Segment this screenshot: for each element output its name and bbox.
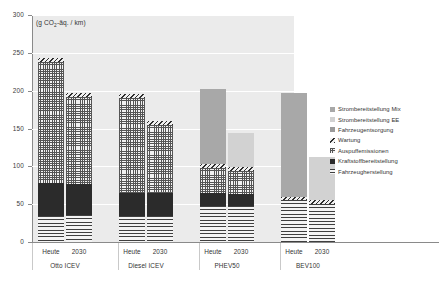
x-axis-subcategory-label: 2030: [143, 248, 177, 255]
axis-unit-label: (g CO2-äq. / km): [36, 19, 86, 28]
bar-segment: [200, 206, 226, 242]
legend-swatch-icon: [330, 159, 335, 164]
x-tick-line: [38, 242, 64, 243]
x-axis-group-label: PHEV50: [194, 262, 260, 269]
bar-segment: [66, 97, 92, 185]
legend-swatch-icon: [330, 127, 335, 132]
bar[interactable]: [281, 93, 307, 242]
y-axis-tick-label: 0: [0, 238, 24, 245]
x-tick-line: [147, 242, 173, 243]
bar-segment: [309, 204, 335, 242]
y-axis-tick: [28, 166, 32, 167]
bar-segment: [228, 206, 254, 242]
bar[interactable]: [66, 93, 92, 242]
x-axis-group-label: BEV100: [275, 262, 341, 269]
chart-figure: (g CO2-äq. / km) 050100150200250300 Heut…: [0, 0, 439, 285]
bar-segment: [66, 184, 92, 214]
legend-item[interactable]: Fahrzeugherstellung: [330, 166, 438, 176]
y-axis-tick-label: 50: [0, 200, 24, 207]
legend-swatch-icon: [330, 169, 335, 174]
legend-item[interactable]: Auspuffemissionen: [330, 146, 438, 156]
x-axis-subcategory-label: 2030: [62, 248, 96, 255]
bar[interactable]: [119, 94, 145, 242]
legend-item-label: Kraftstoffbereitstellung: [338, 158, 398, 164]
x-tick-line: [200, 242, 226, 243]
bar-segment: [119, 193, 145, 216]
y-axis-tick: [28, 129, 32, 130]
gridline: [32, 15, 294, 16]
legend-item-label: Fahrzeugherstellung: [338, 169, 393, 175]
bar-segment: [66, 215, 92, 242]
legend-swatch-icon: [330, 107, 335, 112]
x-tick-line: [66, 242, 92, 243]
bar[interactable]: [38, 58, 64, 242]
legend-item-label: Fahrzeugentsorgung: [338, 127, 393, 133]
bar-segment: [228, 194, 254, 206]
bar-segment: [147, 193, 173, 216]
bar-segment: [228, 171, 254, 194]
bar[interactable]: [147, 121, 173, 242]
bar-segment: [200, 193, 226, 207]
legend-item[interactable]: Fahrzeugentsorgung: [330, 125, 438, 135]
y-axis-tick-label: 150: [0, 125, 24, 132]
legend-item[interactable]: Strombereitstellung EE: [330, 114, 438, 124]
y-axis-tick: [28, 91, 32, 92]
x-tick-line: [119, 242, 145, 243]
y-axis-tick-label: 200: [0, 87, 24, 94]
y-axis-tick-label: 100: [0, 162, 24, 169]
x-tick-line: [228, 242, 254, 243]
bar[interactable]: [200, 89, 226, 242]
y-axis-tick-labels: 050100150200250300: [0, 0, 28, 285]
bar-segment: [147, 125, 173, 193]
figure-caption: [8, 272, 228, 284]
legend-item-label: Wartung: [338, 137, 360, 143]
bar-segment: [200, 168, 226, 193]
legend-item[interactable]: Strombereitstellung Mix: [330, 104, 438, 114]
legend-swatch-icon: [330, 148, 335, 153]
bar-segment: [281, 93, 307, 197]
bar-segment: [38, 216, 64, 242]
legend-item-label: Auspuffemissionen: [338, 148, 389, 154]
legend-item-label: Strombereitstellung EE: [338, 117, 399, 123]
group-separator: [32, 243, 33, 270]
bar[interactable]: [228, 133, 254, 242]
y-axis-tick: [28, 15, 32, 16]
y-axis-tick-label: 300: [0, 11, 24, 18]
bar-segment: [119, 216, 145, 242]
bar-segment: [147, 216, 173, 242]
bar-segment: [38, 183, 64, 216]
chart-legend: Strombereitstellung MixStrombereitstellu…: [330, 104, 438, 177]
y-axis-tick: [28, 204, 32, 205]
x-axis-group-label: Diesel ICEV: [113, 262, 179, 269]
bar-segment: [228, 133, 254, 167]
y-axis-tick-label: 250: [0, 49, 24, 56]
x-tick-line: [281, 242, 307, 243]
legend-item-label: Strombereitstellung Mix: [338, 106, 401, 112]
bar-segment: [38, 62, 64, 183]
x-axis-subcategory-label: 2030: [224, 248, 258, 255]
legend-swatch-icon: [330, 117, 335, 122]
gridline: [32, 53, 294, 54]
x-axis-group-label: Otto ICEV: [32, 262, 98, 269]
x-axis-subcategory-label: 2030: [305, 248, 339, 255]
legend-swatch-icon: [330, 138, 335, 143]
bar-segment: [281, 200, 307, 242]
bar-segment: [119, 98, 145, 193]
legend-item[interactable]: Kraftstoffbereitstellung: [330, 156, 438, 166]
gridline: [32, 91, 294, 92]
bar-segment: [200, 89, 226, 164]
legend-item[interactable]: Wartung: [330, 135, 438, 145]
x-tick-line: [309, 242, 335, 243]
y-axis-tick: [28, 53, 32, 54]
